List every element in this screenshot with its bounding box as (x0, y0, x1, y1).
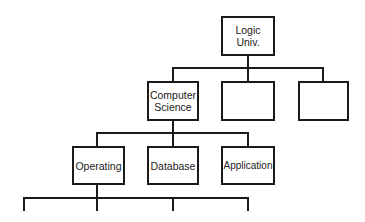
node-operating: Operating (72, 146, 125, 185)
connector-level4-drop-4 (247, 197, 249, 211)
node-level2-empty-2 (298, 81, 349, 121)
connector-database-drop (172, 132, 174, 146)
connector-level4-drop-3 (172, 197, 174, 211)
node-level2-empty-1 (221, 81, 275, 121)
node-database: Database (147, 146, 199, 185)
connector-operating-down (96, 184, 98, 198)
connector-right-drop (322, 67, 324, 81)
connector-level4-drop-1 (23, 197, 25, 211)
connector-level4-bar (23, 197, 249, 199)
connector-level4-drop-2 (96, 197, 98, 211)
connector-application-drop (247, 132, 249, 146)
node-logic-univ: Logic Univ. (221, 16, 275, 56)
connector-cs-drop (172, 67, 174, 81)
node-computer-science: Computer Science (147, 81, 199, 121)
connector-operating-drop (96, 132, 98, 146)
connector-mid-drop (247, 67, 249, 81)
node-application: Application (221, 146, 275, 185)
